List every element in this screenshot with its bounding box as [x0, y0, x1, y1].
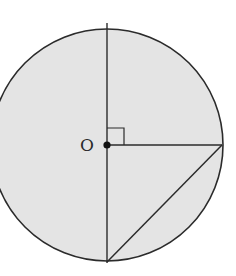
center-point — [103, 141, 110, 148]
circle-diagram: O — [0, 0, 236, 276]
center-label-o: O — [80, 135, 94, 155]
